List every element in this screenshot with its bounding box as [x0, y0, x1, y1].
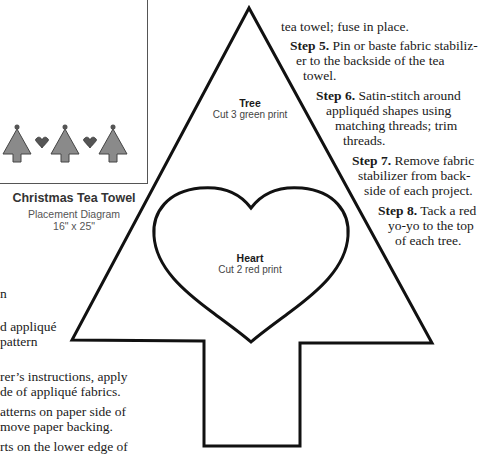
left-text-line: de of appliqué fabrics. — [0, 384, 121, 399]
tree-label-instruction: Cut 3 green print — [200, 109, 300, 120]
step-line: yo-yo to the top — [388, 218, 474, 233]
step-line: appliquéd shapes using — [326, 103, 451, 118]
tree-label-title: Tree — [200, 97, 300, 109]
heart-label-instruction: Cut 2 red print — [200, 264, 300, 275]
left-text-line: rer’s instructions, apply — [0, 369, 128, 384]
mini-tree-icon — [3, 125, 31, 163]
step-line: towel. — [303, 68, 336, 83]
mini-heart-icon — [83, 137, 96, 148]
mini-heart-icon — [35, 137, 48, 148]
left-text-line: n — [0, 286, 7, 301]
left-text-line: rts on the lower edge of — [0, 439, 128, 454]
diagram-subtitle: Placement Diagram — [0, 208, 148, 220]
mini-tree-icon — [99, 125, 127, 163]
placement-motifs — [3, 125, 127, 163]
step-number: Step 6. — [316, 88, 355, 103]
diagram-dimensions: 16" x 25" — [0, 220, 148, 232]
step-line: side of each project. — [364, 183, 473, 198]
step-6-line: Step 6. Satin-stitch around — [316, 88, 461, 103]
step-line: of each tree. — [395, 233, 461, 248]
left-text-line: pattern — [0, 334, 37, 349]
step-number: Step 5. — [290, 38, 329, 53]
heart-label-title: Heart — [200, 252, 300, 264]
left-text-line: move paper backing. — [0, 419, 113, 434]
step-line: threads. — [343, 133, 385, 148]
step-8-line: Step 8. Tack a red — [378, 203, 476, 218]
step-number: Step 8. — [378, 203, 417, 218]
tree-pattern-label: Tree Cut 3 green print — [200, 97, 300, 120]
step-line: er to the backside of the tea — [296, 53, 444, 68]
step-line: stabilizer from back- — [358, 168, 470, 183]
step-number: Step 7. — [352, 153, 391, 168]
heart-pattern-label: Heart Cut 2 red print — [200, 252, 300, 275]
step-line: tea towel; fuse in place. — [281, 19, 409, 34]
step-5-line: Step 5. Pin or baste fabric stabiliz- — [290, 38, 478, 53]
left-text-line: atterns on paper side of — [0, 404, 126, 419]
diagram-title: Christmas Tea Towel — [0, 191, 148, 205]
step-line: matching threads; trim — [335, 118, 457, 133]
left-text-line: d appliqué — [0, 319, 57, 334]
mini-tree-icon — [51, 125, 79, 163]
step-7-line: Step 7. Remove fabric — [352, 153, 474, 168]
